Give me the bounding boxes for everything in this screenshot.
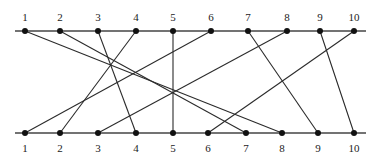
nodes [22, 28, 357, 136]
top-node-3 [95, 28, 101, 34]
top-node-6 [208, 28, 214, 34]
top-node-label: 6 [208, 12, 214, 23]
bottom-node-label: 8 [279, 143, 285, 154]
top-node-9 [317, 28, 323, 34]
top-node-2 [57, 28, 63, 34]
bottom-node-label: 1 [22, 143, 28, 154]
bottom-node-label: 9 [315, 143, 321, 154]
bottom-node-6 [205, 130, 211, 136]
bottom-node-label: 7 [243, 143, 249, 154]
bottom-node-2 [57, 130, 63, 136]
bottom-node-1 [22, 130, 28, 136]
top-node-10 [351, 28, 357, 34]
top-node-label: 5 [170, 12, 176, 23]
top-node-label: 10 [349, 12, 360, 23]
edge-top-9-to-bottom-10 [320, 31, 354, 133]
top-node-label: 9 [317, 12, 323, 23]
bottom-node-label: 3 [95, 143, 101, 154]
bottom-node-3 [95, 130, 101, 136]
top-node-label: 3 [95, 12, 101, 23]
bottom-node-label: 6 [205, 143, 211, 154]
bottom-node-10 [351, 130, 357, 136]
edge-top-6-to-bottom-1 [25, 31, 211, 133]
edge-top-8-to-bottom-3 [98, 31, 287, 133]
bottom-node-label: 4 [133, 143, 139, 154]
top-node-8 [284, 28, 290, 34]
top-node-7 [245, 28, 251, 34]
bottom-node-8 [279, 130, 285, 136]
edge-top-4-to-bottom-2 [60, 31, 136, 133]
bottom-node-7 [243, 130, 249, 136]
top-node-5 [170, 28, 176, 34]
bottom-node-5 [170, 130, 176, 136]
top-node-label: 2 [57, 12, 63, 23]
top-node-1 [22, 28, 28, 34]
bottom-node-4 [133, 130, 139, 136]
bottom-node-9 [315, 130, 321, 136]
top-node-4 [133, 28, 139, 34]
top-node-label: 8 [284, 12, 290, 23]
top-node-label: 7 [245, 12, 251, 23]
bottom-node-label: 10 [349, 143, 360, 154]
top-node-label: 4 [133, 12, 139, 23]
bottom-node-label: 2 [57, 143, 63, 154]
top-node-label: 1 [22, 12, 28, 23]
bottom-node-label: 5 [170, 143, 176, 154]
edge-top-2-to-bottom-7 [60, 31, 246, 133]
edges [25, 31, 354, 133]
edge-top-10-to-bottom-6 [208, 31, 354, 133]
